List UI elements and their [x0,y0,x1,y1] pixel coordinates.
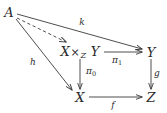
arrow-label-pi1: π1 [112,56,122,66]
arrow-label-k: k [79,18,84,27]
node-pullback: X×Z Y [61,45,100,60]
arrow-label-f: f [111,101,114,110]
node-x: X [75,91,84,104]
pi-index-1: 1 [118,59,122,67]
node-pullback-x: X [61,44,70,59]
node-a: A [4,6,13,19]
pi-index-0: 0 [92,70,96,78]
node-pullback-y: Y [91,44,100,59]
arrow-label-h: h [30,58,36,67]
node-y: Y [147,46,156,59]
times-symbol: × [70,46,80,59]
node-z: Z [146,91,155,104]
commutative-diagram: A X×Z Y Y X Z k h π1 π0 g f [0,0,167,113]
node-pullback-subscript: Z [80,51,87,60]
arrow-label-pi0: π0 [86,67,96,77]
arrow-label-g: g [154,69,160,78]
